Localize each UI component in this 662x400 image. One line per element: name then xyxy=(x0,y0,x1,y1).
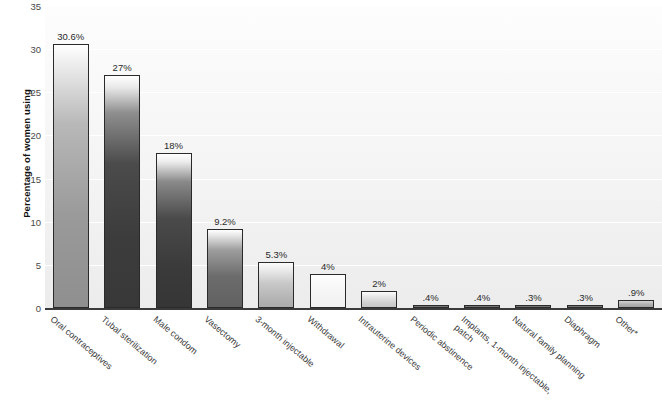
bar-group: 4% xyxy=(310,6,346,308)
bar-group: .3% xyxy=(515,6,551,308)
bars-layer: 30.6%27%18%9.2%5.3%4%2%.4%.4%.3%.3%.9% xyxy=(45,6,662,308)
bar-group: 27% xyxy=(104,6,140,308)
y-axis-tick-35: 35 xyxy=(3,1,41,12)
bar-group: .4% xyxy=(464,6,500,308)
y-axis-tick-labels: 05101520253035 xyxy=(0,0,41,400)
bar-group: 2% xyxy=(361,6,397,308)
bar-chart: Percentage of women using 05101520253035… xyxy=(0,0,662,400)
y-axis-tick-0: 0 xyxy=(3,303,41,314)
bar-value-label: .4% xyxy=(422,292,438,303)
bar[interactable] xyxy=(361,291,397,308)
bar[interactable] xyxy=(413,305,449,308)
bar[interactable] xyxy=(53,44,89,308)
bar-group: .3% xyxy=(567,6,603,308)
x-axis-category-labels: Oral contraceptivesTubal sterilizationMa… xyxy=(45,311,662,400)
bar-value-label: 5.3% xyxy=(266,249,288,260)
bar-value-label: 9.2% xyxy=(214,216,236,227)
bar-group: 9.2% xyxy=(207,6,243,308)
bar-value-label: 4% xyxy=(321,261,335,272)
bar[interactable] xyxy=(207,229,243,308)
bar[interactable] xyxy=(258,262,294,308)
y-axis-tick-10: 10 xyxy=(3,216,41,227)
x-axis-label-5: Withdrawal xyxy=(305,314,346,351)
bar[interactable] xyxy=(156,153,192,308)
bar[interactable] xyxy=(464,305,500,308)
x-axis-label-8: Implants, 1-month injectable, patch xyxy=(452,314,558,400)
y-axis-tick-30: 30 xyxy=(3,44,41,55)
x-axis-label-10: Diaphragm xyxy=(562,314,603,351)
bar-group: 18% xyxy=(156,6,192,308)
bar-group: .9% xyxy=(618,6,654,308)
bar-value-label: 27% xyxy=(113,62,132,73)
x-axis-label-11: Other* xyxy=(613,314,640,339)
bar-value-label: .4% xyxy=(474,292,490,303)
bar-group: 30.6% xyxy=(53,6,89,308)
bar[interactable] xyxy=(567,305,603,308)
x-axis-label-3: Vasectomy xyxy=(202,314,243,351)
bar-value-label: .3% xyxy=(577,292,593,303)
bar[interactable] xyxy=(104,75,140,308)
bar-value-label: 30.6% xyxy=(57,31,84,42)
x-axis-baseline xyxy=(45,308,662,310)
x-axis-label-2: Male condom xyxy=(150,314,198,357)
y-axis-tick-20: 20 xyxy=(3,130,41,141)
bar[interactable] xyxy=(515,305,551,308)
y-axis-tick-5: 5 xyxy=(3,259,41,270)
bar[interactable] xyxy=(310,274,346,309)
bar[interactable] xyxy=(618,300,654,308)
bar-group: .4% xyxy=(413,6,449,308)
bar-value-label: .3% xyxy=(525,292,541,303)
bar-group: 5.3% xyxy=(258,6,294,308)
bar-value-label: 18% xyxy=(164,140,183,151)
bar-value-label: .9% xyxy=(628,287,644,298)
bar-value-label: 2% xyxy=(372,278,386,289)
y-axis-tick-15: 15 xyxy=(3,173,41,184)
y-axis-tick-25: 25 xyxy=(3,87,41,98)
